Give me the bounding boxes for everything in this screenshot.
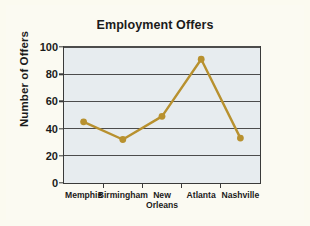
x-tick-label: Nashville xyxy=(212,191,268,201)
y-tick-label: 40 xyxy=(46,123,58,135)
x-tick-mark xyxy=(181,183,182,188)
data-point-marker: Memphis: 45 xyxy=(80,118,87,125)
chart-figure: Employment Offers Number of Offers 02040… xyxy=(0,0,310,226)
y-tick-label: 80 xyxy=(46,68,58,80)
data-point-marker: Birmingham: 32 xyxy=(119,136,126,143)
y-tick-label: 0 xyxy=(52,177,58,189)
line-series: Memphis: 45Birmingham: 32New Orleans: 49… xyxy=(64,47,260,183)
x-tick-mark xyxy=(103,183,104,188)
y-axis-title: Number of Offers xyxy=(18,19,30,139)
y-tick-label: 60 xyxy=(46,95,58,107)
data-point-marker: Nashville: 33 xyxy=(237,135,244,142)
x-tick-mark xyxy=(142,183,143,188)
series-line xyxy=(84,59,241,139)
data-point-marker: New Orleans: 49 xyxy=(159,113,166,120)
x-tick-mark xyxy=(220,183,221,188)
chart-title: Employment Offers xyxy=(6,18,304,32)
plot-area: 020406080100 MemphisBirminghamNew Orlean… xyxy=(63,46,261,184)
chart-canvas: Employment Offers Number of Offers 02040… xyxy=(6,5,304,220)
data-point-marker: Atlanta: 91 xyxy=(198,56,205,63)
y-tick-label: 20 xyxy=(46,150,58,162)
y-tick-label: 100 xyxy=(40,41,58,53)
